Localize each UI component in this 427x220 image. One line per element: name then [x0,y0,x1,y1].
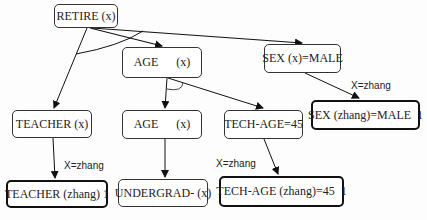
edge-age-age [165,78,167,108]
node-teacher-zhang: TEACHER (zhang) 1 [6,180,108,208]
node-tech-age: TECH-AGE=45 [224,110,303,139]
node-age: AGE (x) [122,47,202,78]
node-undergrad: UNDERGRAD- (x) [118,179,208,207]
node-sex: SEX (x)=MALE [264,44,341,73]
node-age-lower: AGE (x) [122,110,202,139]
edge-age-techage [168,78,263,108]
edge-teacher-teacherzhang [53,138,55,178]
node-tech-age-zhang: TECH-AGE (zhang)=45 1 [219,176,344,207]
edge-label-teacher: X=zhang [64,160,104,171]
node-teacher: TEACHER (x) [12,110,92,138]
edge-label-sex: X=zhang [351,80,391,91]
conjunction-arc-small [167,83,183,90]
diagram-canvas: RETIRE (x) AGE (x) SEX (x)=MALE TEACHER … [0,0,427,220]
node-retire: RETIRE (x) [54,4,118,28]
edge-label-tech-age: X=zhang [216,158,256,169]
edge-retire-teacher [54,28,87,108]
edge-techage-techagezhang [264,139,278,174]
node-sex-zhang: SEX (zhang)=MALE 1 [311,100,420,130]
